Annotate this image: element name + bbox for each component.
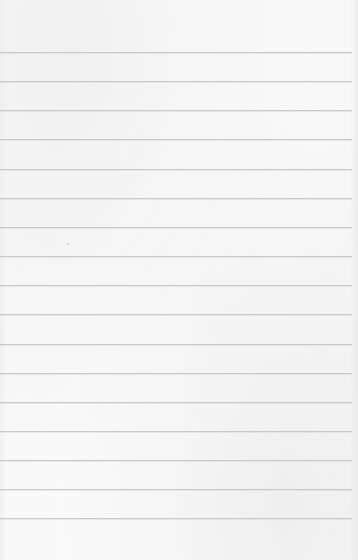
ruled-line (0, 169, 352, 170)
ruled-line (0, 110, 352, 111)
ruled-line (0, 460, 352, 461)
ruled-line (0, 256, 352, 257)
ruled-line (0, 518, 352, 519)
ruled-line (0, 52, 352, 53)
ruled-line (0, 198, 352, 199)
ruled-line (0, 344, 352, 345)
paper-speck (67, 243, 69, 245)
ruled-line (0, 314, 352, 315)
ruled-line (0, 489, 352, 490)
ruled-line (0, 402, 352, 403)
ruled-line (0, 431, 352, 432)
ruled-line (0, 139, 352, 140)
ruled-line (0, 81, 352, 82)
ruled-line (0, 227, 352, 228)
lined-paper (0, 0, 358, 560)
ruled-line (0, 285, 352, 286)
ruled-line (0, 373, 352, 374)
